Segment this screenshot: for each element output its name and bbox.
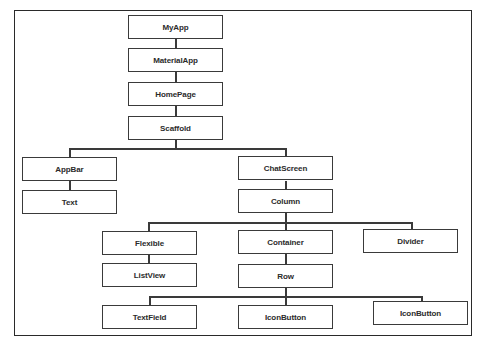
edge-flexible-listview xyxy=(148,255,150,263)
edge-scaffold-branch xyxy=(69,148,286,150)
edge-branch-divider xyxy=(411,222,413,229)
edge-materialapp-homepage xyxy=(175,72,177,82)
node-column: Column xyxy=(238,189,333,213)
node-homepage: HomePage xyxy=(128,82,223,106)
node-appbar: AppBar xyxy=(22,157,117,181)
edge-branch-chatscreen xyxy=(285,148,287,156)
edge-branch-flexible xyxy=(148,222,150,231)
edge-branch-container xyxy=(285,222,287,230)
edge-branch-iconbutton1 xyxy=(285,296,287,305)
node-chatscreen: ChatScreen xyxy=(238,156,333,180)
node-container: Container xyxy=(238,230,333,254)
node-row: Row xyxy=(238,264,333,288)
node-myapp: MyApp xyxy=(128,15,223,39)
edge-homepage-scaffold xyxy=(175,106,177,116)
node-divider: Divider xyxy=(363,229,458,253)
edge-column-down xyxy=(285,213,287,222)
edge-column-branch xyxy=(148,222,412,224)
node-materialapp: MaterialApp xyxy=(128,48,223,72)
edge-row-down xyxy=(285,288,287,296)
node-textfield: TextField xyxy=(102,305,197,329)
node-scaffold: Scaffold xyxy=(128,116,223,140)
edge-branch-textfield xyxy=(149,296,151,305)
edge-container-row xyxy=(285,254,287,264)
node-iconbutton-2: IconButton xyxy=(373,301,468,325)
edge-branch-appbar xyxy=(69,148,71,157)
edge-chatscreen-column xyxy=(285,181,287,189)
node-text: Text xyxy=(22,190,117,214)
node-listview: ListView xyxy=(102,263,197,287)
edge-appbar-text xyxy=(69,181,71,190)
node-iconbutton-1: IconButton xyxy=(238,305,333,329)
edge-scaffold-down xyxy=(175,139,177,148)
node-flexible: Flexible xyxy=(102,231,197,255)
